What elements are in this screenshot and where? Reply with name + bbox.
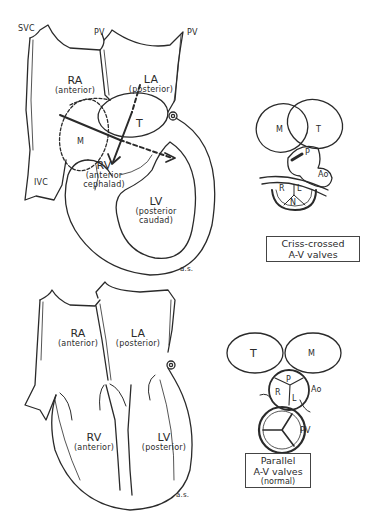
rv-label: RV (anterior cephalad) (76, 160, 132, 189)
bottom-lv-label: LV (posterior) (132, 432, 196, 452)
ivc-label: IVC (34, 178, 48, 187)
la-label: LA (posterior) (118, 74, 184, 94)
pv-right-label: PV (187, 28, 198, 37)
inset-top-left-cusp: L (297, 184, 302, 193)
inset-bottom-pulmonary: P (286, 375, 291, 384)
caption-criss-crossed-line2: A-V valves (270, 249, 356, 260)
bottom-rv-label: RV (anterior) (68, 432, 120, 452)
pv-left-label: PV (94, 28, 105, 37)
mitral-label: M (77, 137, 84, 146)
inset-top-noncoronary-cusp: N (290, 198, 296, 207)
la-name: LA (118, 74, 184, 85)
inset-top-pulmonary: P (305, 148, 310, 157)
inset-bottom-pv: PV (300, 426, 311, 435)
inset-bottom-left-cusp: L (292, 394, 297, 403)
la-position: (posterior) (118, 85, 184, 94)
caption-criss-crossed-line1: Criss-crossed (270, 238, 356, 249)
caption-parallel: Parallel A-V valves (normal) (245, 453, 311, 488)
rv-name: RV (76, 160, 132, 171)
top-heart-criss-crossed (25, 25, 215, 275)
bottom-ra-label: RA (anterior) (50, 328, 106, 348)
caption-parallel-line1: Parallel (249, 455, 307, 466)
heart-diagram-figure: SVC PV PV IVC RA (anterior) LA (posterio… (0, 0, 376, 531)
inset-bottom-mitral: M (308, 349, 315, 358)
bottom-heart-parallel (25, 282, 192, 510)
caption-parallel-line2: A-V valves (249, 466, 307, 477)
bottom-rv-name: RV (68, 432, 120, 443)
top-signature: a.s. (180, 264, 193, 275)
bottom-signature: a.s. (176, 490, 189, 501)
bottom-ra-position: (anterior) (50, 339, 106, 348)
bottom-la-name: LA (106, 328, 170, 339)
inset-top-mitral: M (276, 125, 283, 134)
rv-position-line2: cephalad) (76, 180, 132, 189)
inset-top-tricuspid: T (316, 125, 321, 134)
bottom-lv-name: LV (132, 432, 196, 443)
bottom-rv-position: (anterior) (68, 443, 120, 452)
lv-name: LV (124, 196, 188, 207)
inset-top-right-cusp: R (279, 184, 285, 193)
caption-criss-crossed: Criss-crossed A-V valves (266, 236, 360, 262)
bottom-lv-position: (posterior) (132, 443, 196, 452)
ra-position: (anterior) (48, 86, 102, 95)
inset-bottom-right-cusp: R (275, 388, 281, 397)
inset-top-aortic: Ao (318, 170, 329, 179)
inset-bottom-aortic: Ao (311, 385, 322, 394)
lv-label: LV (posterior caudad) (124, 196, 188, 225)
tricuspid-label: T (136, 118, 143, 129)
bottom-inset-valves-parallel (227, 333, 341, 453)
ra-name: RA (48, 75, 102, 86)
bottom-ra-name: RA (50, 328, 106, 339)
ra-label: RA (anterior) (48, 75, 102, 95)
rv-position-line1: (anterior (76, 171, 132, 180)
svc-label: SVC (18, 24, 35, 33)
inset-bottom-tricuspid: T (250, 348, 257, 359)
lv-position-line2: caudad) (124, 216, 188, 225)
lv-position-line1: (posterior (124, 207, 188, 216)
bottom-la-position: (posterior) (106, 339, 170, 348)
caption-parallel-line3: (normal) (249, 477, 307, 486)
bottom-la-label: LA (posterior) (106, 328, 170, 348)
